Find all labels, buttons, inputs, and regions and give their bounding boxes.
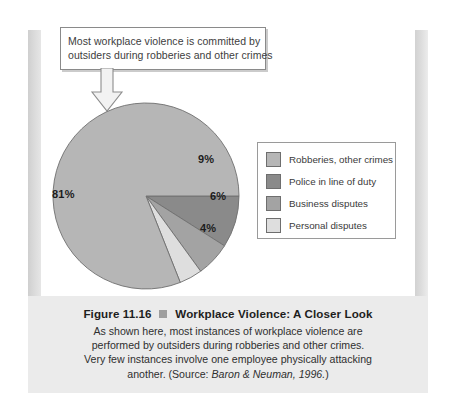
callout-line-2: outsiders during robberies and other cri… (68, 48, 258, 62)
figure-stage: Most workplace violence is committed by … (0, 0, 455, 296)
caption-source-suffix: ) (325, 368, 329, 380)
legend-item-business-disputes: Business disputes (266, 193, 395, 214)
legend-swatch-icon (266, 196, 281, 211)
figure-title: Workplace Violence: A Closer Look (175, 307, 372, 320)
caption-title-row: Figure 11.16 Workplace Violence: A Close… (28, 306, 428, 321)
legend-label: Business disputes (289, 198, 368, 209)
legend-swatch-icon (266, 152, 281, 167)
legend-label: Personal disputes (289, 220, 367, 231)
legend-item-robberies-other-crimes: Robberies, other crimes (266, 149, 395, 170)
caption-source-line: another. (Source: Baron & Neuman, 1996.) (28, 367, 428, 381)
caption-source-prefix: another. (Source: (127, 368, 211, 380)
legend-label: Police in line of duty (289, 176, 376, 187)
caption-body-line-3: Very few instances involve one employee … (28, 352, 428, 366)
figure-number: Figure 11.16 (83, 307, 151, 320)
figure-caption: Figure 11.16 Workplace Violence: A Close… (28, 296, 428, 393)
legend-item-personal-disputes: Personal disputes (266, 215, 395, 236)
legend-label: Robberies, other crimes (289, 154, 393, 165)
pie-chart: 81% 9% 6% 4% (48, 98, 244, 294)
callout-line-1: Most workplace violence is committed by (68, 34, 258, 48)
pie-label-business-disputes: 6% (210, 190, 226, 202)
legend-swatch-icon (266, 218, 281, 233)
caption-source-citation: Baron & Neuman, 1996. (212, 368, 326, 380)
caption-body-line-1: As shown here, most instances of workpla… (28, 324, 428, 338)
callout-box: Most workplace violence is committed by … (60, 27, 266, 70)
legend-swatch-icon (266, 174, 281, 189)
legend-item-police-in-line-of-duty: Police in line of duty (266, 171, 395, 192)
pie-label-police-in-line-of-duty: 9% (198, 153, 214, 165)
caption-body-line-2: performed by outsiders during robberies … (28, 338, 428, 352)
chart-legend: Robberies, other crimes Police in line o… (257, 142, 396, 239)
square-bullet-icon (159, 310, 167, 318)
pie-label-robberies-other-crimes: 81% (52, 188, 75, 200)
pie-label-personal-disputes: 4% (200, 222, 216, 234)
